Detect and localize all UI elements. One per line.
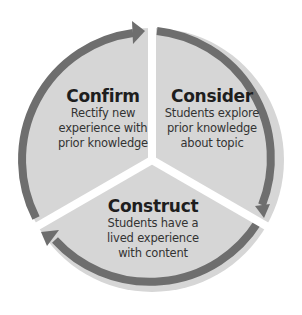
stage-consider: Consider Students explore prior knowledg…	[156, 86, 268, 151]
stage-description-line: with content	[93, 246, 213, 261]
stage-title: Confirm	[48, 86, 158, 106]
stage-description-line: prior knowledge	[48, 136, 158, 151]
stage-description-line: Students explore	[156, 106, 268, 121]
stage-description-line: about topic	[156, 136, 268, 151]
stage-confirm: Confirm Rectify new experience with prio…	[48, 86, 158, 151]
stage-description-line: experience with	[48, 121, 158, 136]
stage-construct: Construct Students have a lived experien…	[93, 196, 213, 261]
stage-description-line: Rectify new	[48, 106, 158, 121]
stage-description-line: lived experience	[93, 231, 213, 246]
stage-description-line: Students have a	[93, 216, 213, 231]
stage-description-line: prior knowledge	[156, 121, 268, 136]
cycle-diagram	[0, 0, 302, 315]
stage-title: Consider	[156, 86, 268, 106]
stage-title: Construct	[93, 196, 213, 216]
